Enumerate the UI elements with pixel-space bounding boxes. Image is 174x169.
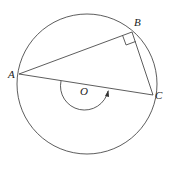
geometry-diagram: A B C O bbox=[0, 0, 174, 169]
label-a: A bbox=[7, 68, 15, 80]
segment-ab bbox=[19, 32, 132, 74]
arrowhead-icon bbox=[105, 90, 109, 97]
label-o: O bbox=[80, 85, 88, 97]
label-c: C bbox=[155, 89, 163, 101]
label-b: B bbox=[134, 16, 141, 28]
circle bbox=[17, 14, 157, 154]
